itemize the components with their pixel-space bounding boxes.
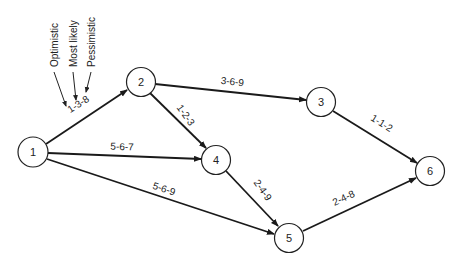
edge-label-3-6: 1-1-2	[369, 112, 395, 134]
node-2: 2	[127, 68, 156, 97]
edge-label-2-3: 3-6-9	[220, 75, 245, 88]
edge-label-5-6: 2-4-8	[331, 188, 357, 208]
edge-5-6	[303, 178, 416, 231]
node-label-3: 3	[318, 96, 324, 108]
node-6: 6	[416, 157, 445, 186]
node-5: 5	[275, 224, 304, 253]
edge-1-4	[48, 153, 201, 159]
legend-most-likely: Most likely	[68, 20, 79, 67]
node-label-1: 1	[30, 146, 36, 158]
legend-optimistic: Optimistic	[49, 23, 60, 67]
pert-network-diagram: 1-3-8 5-6-7 5-6-9 3-6-9 1-2-3 1-1-2 2-4-…	[0, 0, 461, 260]
node-3: 3	[307, 88, 336, 117]
edge-label-2-4: 1-2-3	[175, 102, 198, 128]
edge-label-1-4: 5-6-7	[110, 141, 134, 153]
pointer-optimistic	[54, 72, 66, 106]
node-label-5: 5	[286, 232, 292, 244]
pointer-most-likely	[73, 72, 76, 100]
pointer-pessimistic	[86, 72, 91, 92]
edge-label-1-2: 1-3-8	[65, 93, 91, 115]
edge-label-4-5: 2-4-9	[252, 177, 275, 203]
edge-1-5	[47, 159, 274, 234]
node-4: 4	[202, 146, 231, 175]
node-1: 1	[18, 137, 48, 167]
legend-pessimistic: Pessimistic	[86, 17, 97, 67]
node-label-4: 4	[213, 154, 219, 166]
node-label-2: 2	[138, 76, 144, 88]
node-label-6: 6	[427, 165, 433, 177]
